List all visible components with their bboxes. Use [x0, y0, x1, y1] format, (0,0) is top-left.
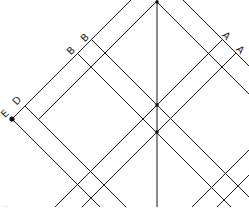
line-apex-right: [157, 2, 249, 94]
line-A2: [82, 53, 236, 207]
clipped-caption: …: [2, 201, 10, 207]
down-right-lines: [12, 0, 249, 207]
label-B1: B: [64, 44, 77, 57]
label-D: D: [10, 94, 23, 107]
point-center-lower: [155, 130, 159, 134]
line-E: [12, 119, 100, 207]
line-outer-left: [12, 0, 131, 119]
point-apex: [155, 0, 159, 4]
line-D: [25, 106, 126, 207]
line-apex-left: [38, 1, 157, 120]
line-B2: [78, 54, 232, 208]
line-lower-1: [192, 150, 249, 207]
line-lower-2: [217, 175, 249, 207]
geometric-grid-diagram: EDBBAA: [0, 0, 249, 207]
label-E: E: [0, 108, 11, 120]
line-A1: [55, 40, 223, 208]
point-E-point: [9, 116, 14, 121]
label-A2: A: [234, 43, 247, 56]
intersection-points: [9, 0, 158, 134]
line-outer-right-top: [183, 0, 249, 66]
point-center-upper: [155, 103, 159, 107]
line-labels: EDBBAA: [0, 29, 247, 119]
